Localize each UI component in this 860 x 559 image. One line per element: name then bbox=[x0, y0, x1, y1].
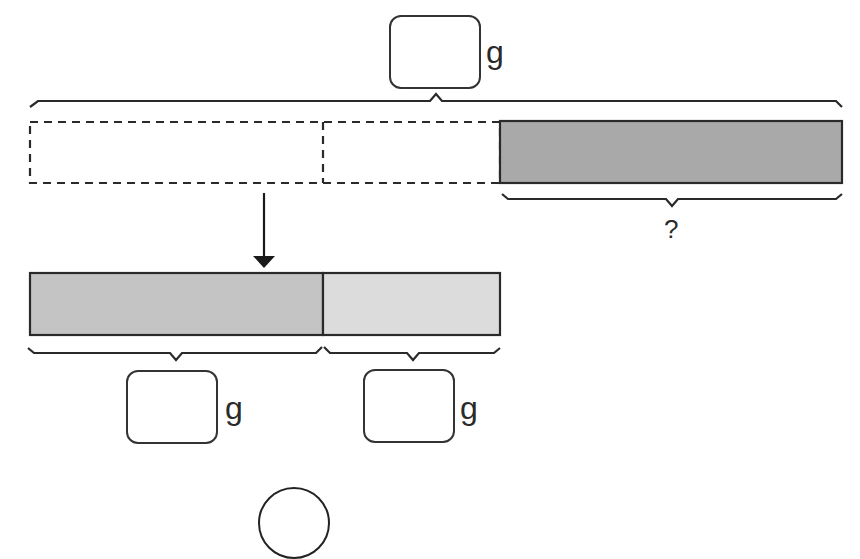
dashed-bar bbox=[30, 122, 500, 183]
bottom-bar-part-1 bbox=[30, 273, 323, 335]
unknown-brace bbox=[502, 194, 842, 206]
down-arrow-icon bbox=[253, 256, 275, 268]
shaded-bar-unknown bbox=[500, 121, 842, 183]
part-1-brace bbox=[28, 347, 322, 360]
part-1-unit-label: g bbox=[225, 392, 243, 424]
operator-circle[interactable] bbox=[258, 487, 330, 559]
part-2-unit-label: g bbox=[460, 392, 478, 424]
total-unit-label: g bbox=[486, 36, 504, 68]
part-1-answer-box[interactable] bbox=[126, 370, 218, 444]
unknown-label: ? bbox=[664, 216, 678, 242]
bottom-bar-part-2 bbox=[323, 273, 500, 335]
total-answer-box[interactable] bbox=[389, 15, 481, 89]
part-2-brace bbox=[324, 347, 500, 360]
part-2-answer-box[interactable] bbox=[363, 369, 455, 443]
total-brace bbox=[30, 94, 842, 107]
